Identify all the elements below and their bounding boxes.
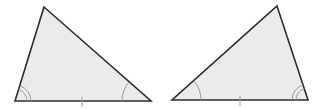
triangle-shape <box>172 6 308 100</box>
right-triangle <box>172 6 308 106</box>
left-triangle <box>15 7 151 107</box>
congruent-triangles-diagram <box>0 0 321 109</box>
triangle-shape <box>15 7 151 101</box>
